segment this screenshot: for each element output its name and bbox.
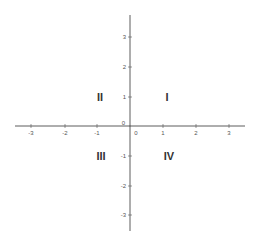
quadrant-label-iii: III — [96, 150, 105, 162]
x-tick-label: -1 — [94, 130, 100, 136]
quadrant-label-ii: II — [97, 91, 103, 103]
y-tick-label: -2 — [121, 183, 127, 189]
quadrant-label-i: I — [165, 91, 168, 103]
y-tick-label: 2 — [123, 64, 127, 70]
x-tick-label: -3 — [28, 130, 34, 136]
x-tick-label: 1 — [161, 130, 165, 136]
quadrant-label-iv: IV — [164, 150, 175, 162]
x-tick-label: 0 — [134, 130, 138, 136]
x-tick-label: 3 — [227, 130, 231, 136]
x-tick-label: -2 — [62, 130, 68, 136]
y-tick-label: 3 — [123, 34, 127, 40]
coordinate-plane: -3 -2 -1 0 1 2 3 3 2 1 0 -1 -2 -3 I II I… — [0, 0, 258, 246]
y-tick-label: -3 — [121, 212, 127, 218]
y-tick-label: 0 — [122, 120, 126, 126]
y-tick-label: 1 — [123, 94, 127, 100]
y-tick-label: -1 — [121, 153, 127, 159]
x-tick-label: 2 — [194, 130, 198, 136]
